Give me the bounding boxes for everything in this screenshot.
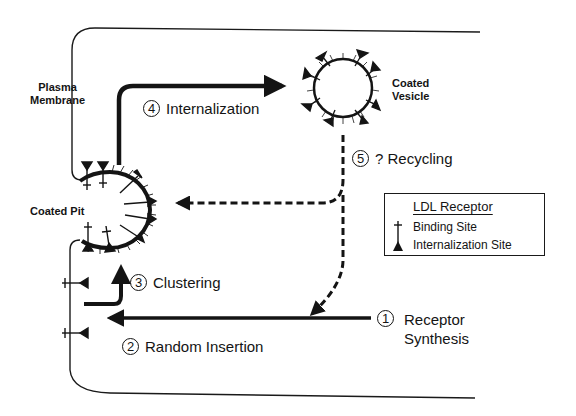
- arrow-clustering: [84, 268, 121, 304]
- step-label: Internalization: [166, 100, 259, 117]
- arrow-internalization: [119, 86, 282, 165]
- plasma-membrane-label: Plasma Membrane: [30, 81, 85, 107]
- step-label: ? Recycling: [375, 150, 453, 167]
- membrane-receptors: [62, 278, 88, 338]
- coated-vesicle: [302, 50, 380, 126]
- step-clustering: 3 Clustering: [130, 274, 221, 291]
- coated-vesicle-label: Coated Vesicle: [392, 77, 429, 103]
- arrow-recycling-to-pit: [178, 135, 343, 203]
- step-number: 4: [143, 100, 160, 117]
- step-number: 2: [122, 338, 139, 355]
- arrow-recycling-down: [312, 195, 343, 314]
- legend-item-internalization-site: Internalization Site: [413, 238, 512, 252]
- step-number: 3: [130, 274, 147, 291]
- legend-item-binding-site: Binding Site: [413, 220, 477, 234]
- legend-box: LDL Receptor Binding Site Internalizatio…: [384, 193, 545, 256]
- coated-pit: [80, 162, 156, 254]
- step-label: Receptor Synthesis: [404, 310, 469, 348]
- step-internalization: 4 Internalization: [143, 100, 259, 117]
- step-number: 5: [352, 150, 369, 167]
- step-random-insertion: 2 Random Insertion: [122, 338, 263, 355]
- receptor-symbol-icon: [391, 219, 405, 253]
- legend-title: LDL Receptor: [413, 199, 493, 214]
- step-receptor-synthesis: 1 Receptor Synthesis: [377, 310, 469, 348]
- step-number: 1: [377, 310, 394, 327]
- step-label: Clustering: [153, 274, 221, 291]
- step-label: Random Insertion: [145, 338, 263, 355]
- step-recycling: 5 ? Recycling: [352, 150, 453, 167]
- coated-pit-label: Coated Pit: [30, 205, 84, 218]
